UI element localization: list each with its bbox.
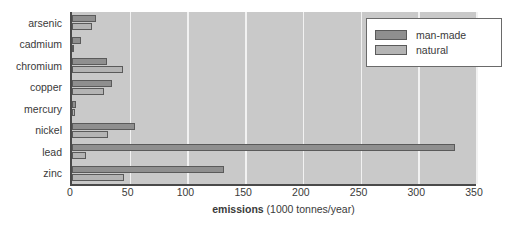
bar-mercury-man-made — [72, 101, 76, 108]
x-tick-250: 250 — [350, 186, 368, 198]
bar-copper-man-made — [72, 80, 112, 87]
bar-lead-man-made — [72, 144, 455, 151]
y-axis-label-chromium: chromium — [16, 60, 62, 72]
y-axis-label-cadmium: cadmium — [19, 38, 62, 50]
bar-group — [72, 120, 476, 142]
chart-legend: man-madenatural — [366, 18, 502, 67]
bar-copper-natural — [72, 88, 104, 95]
legend-item-man-made[interactable]: man-made — [375, 29, 493, 41]
bar-arsenic-man-made — [72, 15, 96, 22]
x-tick-0: 0 — [67, 186, 73, 198]
bar-cadmium-man-made — [72, 37, 81, 44]
legend-label-man-made: man-made — [416, 29, 466, 41]
y-axis-label-arsenic: arsenic — [28, 17, 62, 29]
bar-zinc-natural — [72, 174, 124, 181]
x-tick-350: 350 — [465, 186, 483, 198]
x-tick-300: 300 — [408, 186, 426, 198]
bar-group — [72, 98, 476, 120]
x-tick-200: 200 — [292, 186, 310, 198]
x-axis-tick-labels: 050100150200250300350 — [70, 186, 474, 202]
x-tick-100: 100 — [177, 186, 195, 198]
y-axis-label-copper: copper — [30, 81, 62, 93]
y-axis-label-nickel: nickel — [35, 124, 62, 136]
x-axis-title: emissions (1000 tonnes/year) — [0, 203, 519, 215]
bar-mercury-natural — [72, 109, 75, 116]
bar-group — [72, 141, 476, 163]
bar-nickel-man-made — [72, 123, 135, 130]
y-axis-label-zinc: zinc — [43, 167, 62, 179]
y-axis-label-mercury: mercury — [24, 103, 62, 115]
bar-zinc-man-made — [72, 166, 224, 173]
x-axis-title-strong: emissions — [212, 203, 263, 215]
bar-lead-natural — [72, 152, 86, 159]
legend-label-natural: natural — [416, 44, 448, 56]
bar-arsenic-natural — [72, 23, 92, 30]
bar-chromium-man-made — [72, 58, 107, 65]
legend-swatch-natural — [375, 45, 407, 55]
x-tick-150: 150 — [234, 186, 252, 198]
y-axis-label-lead: lead — [42, 146, 62, 158]
x-tick-50: 50 — [122, 186, 134, 198]
bar-group — [72, 77, 476, 99]
bar-chromium-natural — [72, 66, 123, 73]
bar-group — [72, 163, 476, 185]
legend-swatch-man-made — [375, 30, 407, 40]
y-axis-category-labels: arseniccadmiumchromiumcoppermercurynicke… — [0, 12, 66, 184]
x-axis-title-rest: (1000 tonnes/year) — [264, 203, 355, 215]
bar-cadmium-natural — [72, 45, 74, 52]
bar-nickel-natural — [72, 131, 108, 138]
emissions-bar-chart: arseniccadmiumchromiumcoppermercurynicke… — [0, 0, 519, 227]
legend-item-natural[interactable]: natural — [375, 44, 493, 56]
